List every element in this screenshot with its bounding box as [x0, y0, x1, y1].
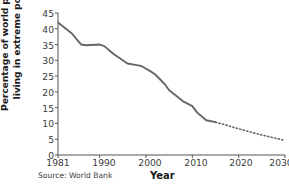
x-axis-label: Year — [150, 170, 175, 181]
y-tick-5: 5 — [36, 134, 54, 145]
y-axis-label-line1: Percentage of world population — [0, 0, 11, 111]
y-axis-label-line2: living in extreme poverty — [11, 0, 23, 111]
y-tick-40: 40 — [36, 24, 54, 35]
y-tick-10: 10 — [36, 118, 54, 129]
y-tick-20: 20 — [36, 87, 54, 98]
y-tick-45: 45 — [36, 8, 54, 19]
y-tick-15: 15 — [36, 103, 54, 114]
x-tick-2010: 2010 — [184, 157, 207, 168]
series-projection-line — [216, 122, 285, 140]
chart-figure: Percentage of world population living in… — [0, 0, 289, 189]
x-tick-1990: 1990 — [92, 157, 115, 168]
x-tick-2030: 2030 — [269, 157, 289, 168]
axis-lines — [58, 13, 285, 155]
x-tick-2020: 2020 — [229, 157, 252, 168]
y-tick-35: 35 — [36, 40, 54, 51]
y-axis-label: Percentage of world population living in… — [0, 0, 33, 111]
x-tick-2000: 2000 — [138, 157, 161, 168]
source-note: Source: World Bank — [38, 171, 112, 180]
y-tick-25: 25 — [36, 71, 54, 82]
x-tick-1981: 1981 — [46, 157, 69, 168]
y-tick-30: 30 — [36, 55, 54, 66]
series-historical-line — [58, 22, 216, 122]
